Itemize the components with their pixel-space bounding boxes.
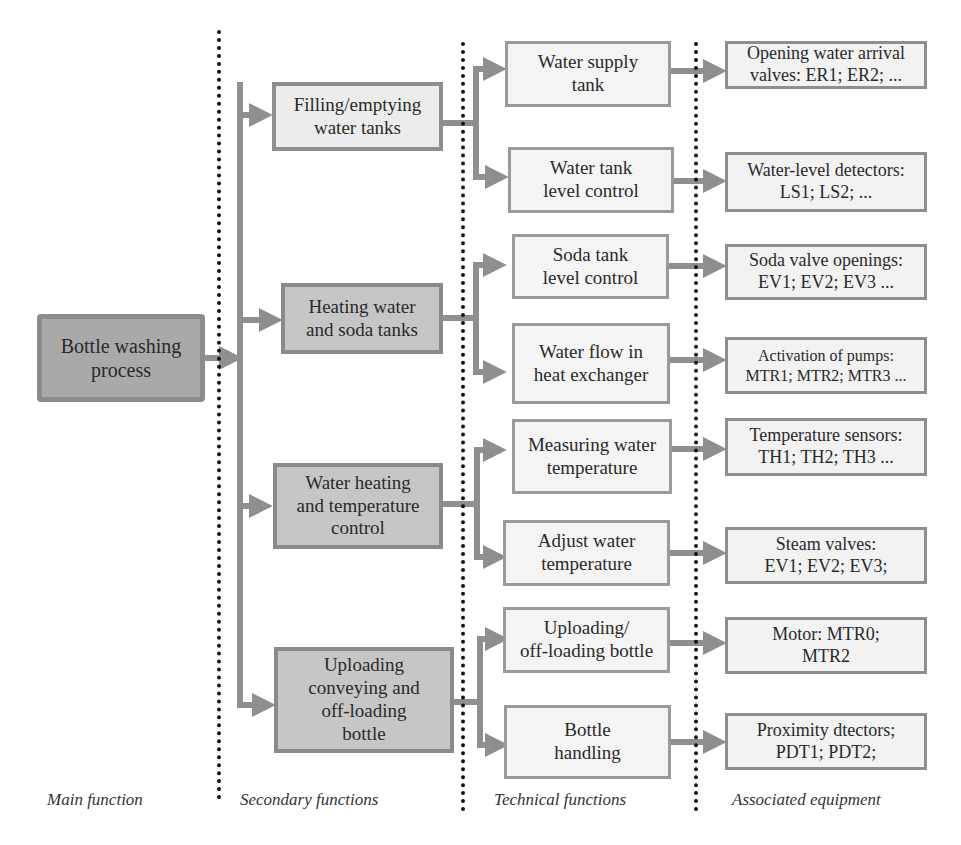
- technical-function-uploading-offloading: Uploading/ off-loading bottle: [503, 607, 670, 673]
- equipment-label: Water-level detectors: LS1; LS2; ...: [747, 160, 905, 203]
- technical-function-soda-tank-level: Soda tank level control: [512, 234, 669, 299]
- technical-function-label: Water flow in heat exchanger: [534, 341, 648, 387]
- column-label-equipment: Associated equipment: [732, 790, 881, 810]
- equipment-label: Motor: MTR0; MTR2: [772, 624, 880, 667]
- technical-function-label: Measuring water temperature: [528, 434, 656, 480]
- column-label-main: Main function: [47, 790, 143, 810]
- technical-function-measure-temperature: Measuring water temperature: [512, 419, 672, 494]
- equipment-label: Proximity dtectors; PDT1; PDT2;: [757, 720, 896, 763]
- column-label-secondary: Secondary functions: [240, 790, 378, 810]
- equipment-water-level-detectors: Water-level detectors: LS1; LS2; ...: [725, 152, 927, 212]
- technical-function-label: Bottle handling: [554, 719, 621, 765]
- technical-function-label: Water tank level control: [543, 157, 639, 203]
- equipment-label: Opening water arrival valves: ER1; ER2; …: [747, 43, 905, 86]
- technical-function-label: Water supply tank: [538, 51, 638, 97]
- technical-function-label: Uploading/ off-loading bottle: [520, 617, 653, 663]
- secondary-function-bottle-conveying: Uploading conveying and off-loading bott…: [274, 647, 454, 753]
- equipment-label: Activation of pumps: MTR1; MTR2; MTR3 ..…: [746, 346, 907, 384]
- secondary-function-label: Filling/emptying water tanks: [294, 94, 422, 140]
- technical-function-water-tank-level: Water tank level control: [508, 147, 674, 213]
- technical-function-label: Soda tank level control: [543, 244, 639, 290]
- secondary-function-heating-tanks: Heating water and soda tanks: [281, 283, 443, 354]
- technical-function-water-supply-tank: Water supply tank: [505, 41, 671, 107]
- secondary-function-label: Uploading conveying and off-loading bott…: [308, 654, 419, 745]
- divider-secondary-technical: [461, 42, 465, 812]
- divider-main-secondary: [217, 30, 221, 800]
- divider-technical-equipment: [694, 42, 698, 812]
- equipment-temperature-sensors: Temperature sensors: TH1; TH2; TH3 ...: [725, 418, 927, 476]
- equipment-soda-valve-openings: Soda valve openings: EV1; EV2; EV3 ...: [725, 244, 927, 300]
- equipment-label: Temperature sensors: TH1; TH2; TH3 ...: [749, 425, 902, 468]
- main-function-box: Bottle washing process: [37, 314, 205, 402]
- equipment-steam-valves: Steam valves: EV1; EV2; EV3;: [725, 527, 927, 584]
- column-label-technical: Technical functions: [494, 790, 626, 810]
- equipment-motors: Motor: MTR0; MTR2: [725, 617, 927, 674]
- technical-function-adjust-temperature: Adjust water temperature: [503, 520, 670, 586]
- secondary-function-label: Water heating and temperature control: [297, 472, 420, 540]
- equipment-water-arrival-valves: Opening water arrival valves: ER1; ER2; …: [725, 41, 927, 89]
- secondary-function-filling-emptying: Filling/emptying water tanks: [272, 82, 443, 151]
- technical-function-label: Adjust water temperature: [538, 530, 636, 576]
- secondary-function-label: Heating water and soda tanks: [306, 296, 418, 342]
- main-function-label: Bottle washing process: [61, 334, 182, 382]
- secondary-function-temperature-control: Water heating and temperature control: [273, 463, 443, 549]
- equipment-proximity-detectors: Proximity dtectors; PDT1; PDT2;: [725, 713, 927, 770]
- technical-function-bottle-handling: Bottle handling: [504, 705, 671, 779]
- equipment-pump-activation: Activation of pumps: MTR1; MTR2; MTR3 ..…: [725, 337, 927, 394]
- technical-function-heat-exchanger-flow: Water flow in heat exchanger: [512, 323, 670, 404]
- equipment-label: Steam valves: EV1; EV2; EV3;: [765, 534, 888, 577]
- equipment-label: Soda valve openings: EV1; EV2; EV3 ...: [749, 250, 903, 293]
